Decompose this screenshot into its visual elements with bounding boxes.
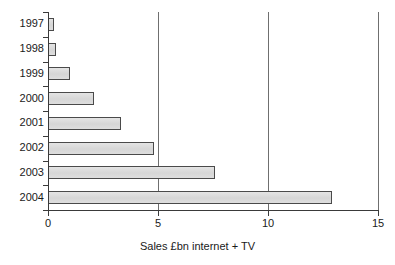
bar-2003	[48, 166, 215, 179]
y-tick-1	[43, 37, 49, 38]
y-tick-label-2004: 2004	[0, 192, 44, 203]
y-tick-2	[43, 62, 49, 63]
bar-2000	[48, 92, 94, 105]
bar-1998	[48, 43, 56, 56]
y-tick-6	[43, 161, 49, 162]
bar-2001	[48, 117, 121, 130]
plot-area	[48, 12, 378, 210]
y-tick-7	[43, 185, 49, 186]
bar-chart: 1997 1998 1999 2000 2001 2002 2003 2004 …	[0, 0, 395, 265]
bar-1999	[48, 67, 70, 80]
x-axis-line	[48, 210, 379, 211]
x-tick-10	[268, 211, 269, 216]
gridline-15	[378, 12, 379, 210]
x-tick-label-0: 0	[45, 218, 51, 229]
y-tick-label-1999: 1999	[0, 68, 44, 79]
y-tick-label-2003: 2003	[0, 167, 44, 178]
x-tick-label-15: 15	[372, 218, 384, 229]
x-tick-0	[48, 211, 49, 216]
x-tick-label-5: 5	[155, 218, 161, 229]
y-tick-5	[43, 136, 49, 137]
y-tick-label-2001: 2001	[0, 117, 44, 128]
x-tick-label-10: 10	[262, 218, 274, 229]
x-axis-title: Sales £bn internet + TV	[0, 240, 395, 252]
y-axis-tick-labels: 1997 1998 1999 2000 2001 2002 2003 2004	[0, 0, 44, 265]
y-tick-3	[43, 86, 49, 87]
y-tick-0	[43, 12, 49, 13]
x-tick-15	[378, 211, 379, 216]
y-tick-label-2000: 2000	[0, 93, 44, 104]
x-tick-5	[158, 211, 159, 216]
gridline-10	[268, 12, 269, 210]
y-tick-label-1998: 1998	[0, 43, 44, 54]
y-tick-label-1997: 1997	[0, 18, 44, 29]
gridline-5	[158, 12, 159, 210]
y-tick-label-2002: 2002	[0, 142, 44, 153]
bar-2004	[48, 191, 332, 204]
y-tick-4	[43, 111, 49, 112]
bar-2002	[48, 142, 154, 155]
